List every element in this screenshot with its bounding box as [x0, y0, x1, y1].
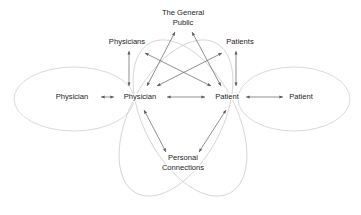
relationship-diagram: PhysicianPhysicianPhysicianPhysicianPati…	[0, 0, 361, 215]
edge-physicians-to-physician	[128, 51, 131, 86]
ellipse-group	[14, 21, 350, 214]
edge-physician-to-patient-head-end	[201, 96, 205, 99]
edge-patient-inner-to-outer	[246, 96, 283, 99]
edge-physician-to-patient-head-start	[167, 96, 171, 99]
edge-patient-inner-to-outer-head-start	[246, 96, 250, 99]
edge-physicians-to-physician-head-end	[128, 82, 131, 86]
physicians_group-label: Physicians	[109, 37, 145, 46]
label-group: PhysicianPhysicianPhysicianPhysicianPati…	[56, 8, 314, 172]
edge-physician-outer-to-inner	[101, 96, 114, 99]
patient_outer_right-label: Patient	[289, 92, 314, 101]
ellipse-center-right	[109, 21, 270, 214]
physician_outer_left-label: Physician	[56, 92, 89, 101]
edge-patients-to-patient	[235, 51, 238, 86]
edge-patient-to-personal	[199, 110, 226, 152]
edge-physicians-to-physician-head-start	[128, 51, 131, 55]
edge-physician-to-personal	[144, 110, 166, 152]
patients_group-label: Patients	[226, 37, 254, 46]
physician_inner-label: Physician	[124, 92, 157, 101]
the_general_public-label: The GeneralPublic	[162, 8, 205, 27]
edge-patient-to-personal-head-end	[199, 148, 202, 152]
personal_connections-label: PersonalConnections	[162, 153, 204, 172]
edge-physician-outer-to-inner-head-start	[101, 96, 105, 99]
edge-patient-inner-to-outer-head-end	[279, 96, 283, 99]
edge-patients-to-patient-head-start	[235, 51, 238, 55]
edge-physician-to-patient	[167, 96, 205, 99]
edge-patients-to-patient-head-end	[235, 82, 238, 86]
edge-patient-to-personal-head-start	[223, 110, 226, 114]
diagram-canvas: PhysicianPhysicianPhysicianPhysicianPati…	[0, 0, 361, 215]
edge-patient-to-personal-line	[199, 110, 226, 152]
patient_inner-label: Patient	[215, 92, 240, 101]
ellipse-center-left	[95, 21, 256, 214]
edge-physician-to-personal-line	[144, 110, 166, 152]
edge-physician-outer-to-inner-head-end	[110, 96, 114, 99]
